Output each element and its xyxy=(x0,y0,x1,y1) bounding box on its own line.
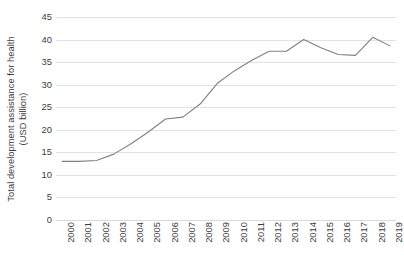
y-axis-title-line-1: Total development assistance for health xyxy=(5,36,17,201)
x-tick-label-2005: 2005 xyxy=(152,222,161,243)
y-tick-label-10: 10 xyxy=(42,170,52,179)
y-tick-label-45: 45 xyxy=(42,12,52,21)
x-tick-label-2002: 2002 xyxy=(101,222,110,243)
x-tick-label-2011: 2011 xyxy=(256,222,265,242)
x-tick-label-2017: 2017 xyxy=(359,222,368,243)
x-axis-tick-labels: 2000200120022003200420052006200720082009… xyxy=(0,220,402,260)
y-tick-label-30: 30 xyxy=(42,80,52,89)
x-tick-label-2014: 2014 xyxy=(308,222,317,243)
x-tick-label-2009: 2009 xyxy=(221,222,230,243)
x-tick-label-2010: 2010 xyxy=(239,222,248,243)
plot-area xyxy=(56,17,396,220)
x-tick-label-2012: 2012 xyxy=(273,222,282,243)
y-tick-label-15: 15 xyxy=(42,148,52,157)
x-tick-label-2001: 2001 xyxy=(83,222,92,243)
x-tick-label-2004: 2004 xyxy=(135,222,144,243)
x-tick-label-2016: 2016 xyxy=(342,222,351,243)
x-tick-label-2000: 2000 xyxy=(66,222,75,243)
x-tick-label-2006: 2006 xyxy=(170,222,179,243)
series-line xyxy=(56,17,396,220)
x-tick-label-2008: 2008 xyxy=(204,222,213,243)
x-tick-label-2019: 2019 xyxy=(394,222,403,243)
x-tick-label-2003: 2003 xyxy=(118,222,127,243)
y-tick-label-5: 5 xyxy=(47,193,52,202)
y-tick-label-20: 20 xyxy=(42,125,52,134)
x-tick-label-2018: 2018 xyxy=(377,222,386,243)
x-tick-label-2015: 2015 xyxy=(325,222,334,243)
x-tick-label-2013: 2013 xyxy=(290,222,299,243)
y-tick-label-40: 40 xyxy=(42,35,52,44)
y-tick-label-25: 25 xyxy=(42,103,52,112)
x-tick-label-2007: 2007 xyxy=(187,222,196,243)
y-tick-label-35: 35 xyxy=(42,57,52,66)
